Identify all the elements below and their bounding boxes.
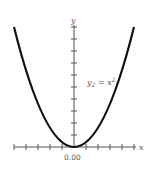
parabola-graph: y x 0.00 y2 = x2 <box>0 0 152 173</box>
curve-label: y2 = x2 <box>86 76 116 88</box>
y-axis-label: y <box>70 16 76 25</box>
x-axis-label: x <box>139 143 144 152</box>
origin-label: 0.00 <box>64 153 81 162</box>
